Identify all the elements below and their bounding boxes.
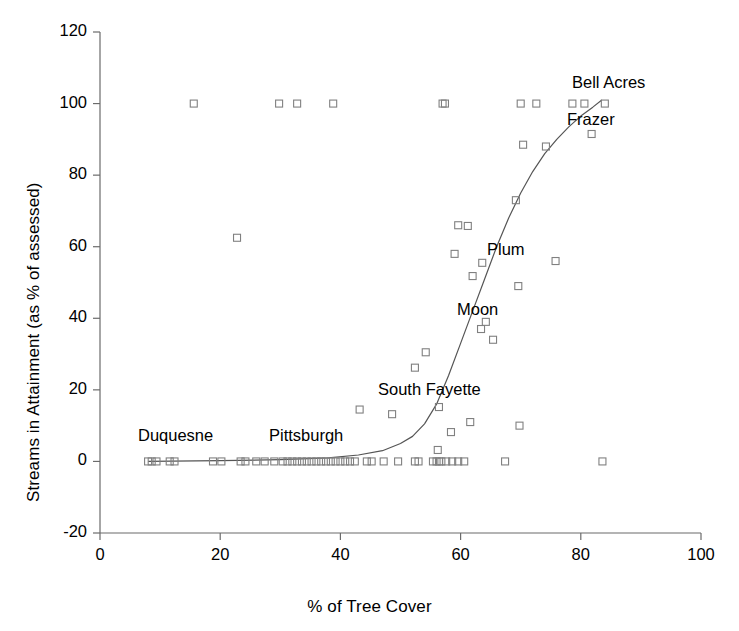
y-tick-label: 100 [41,93,87,112]
data-point-marker [242,458,249,465]
data-point-marker [342,458,349,465]
data-point-marker [599,458,606,465]
data-point-marker [271,458,278,465]
y-axis-ticks [93,32,100,533]
x-tick-label: 100 [678,545,724,564]
data-point-marker [276,100,283,107]
scatter-chart: Streams in Attainment (as % of assessed)… [0,0,739,631]
data-point-marker [368,458,375,465]
data-point-marker [439,100,446,107]
x-tick-label: 40 [317,545,363,564]
data-point-marker [441,100,448,107]
data-point-marker [533,100,540,107]
data-points [145,100,609,465]
data-point-marker [330,100,337,107]
data-point-marker [455,222,462,229]
y-tick-label: 120 [41,21,87,40]
data-point-marker [438,458,445,465]
data-point-marker [569,100,576,107]
data-point-marker [478,326,485,333]
point-annotation-label: Frazer [567,110,615,129]
x-axis-title: % of Tree Cover [0,597,739,617]
data-point-marker [380,458,387,465]
point-annotation-label: Bell Acres [572,73,645,92]
data-point-marker [209,458,216,465]
point-annotation-label: Moon [457,300,498,319]
data-point-marker [552,258,559,265]
y-tick-label: -20 [41,522,87,541]
data-point-marker [601,100,608,107]
y-tick-label: 20 [41,379,87,398]
x-tick-label: 60 [438,545,484,564]
data-point-marker [464,222,471,229]
x-tick-label: 20 [197,545,243,564]
plot-area [0,0,739,631]
data-point-marker [261,458,268,465]
data-point-marker [294,100,301,107]
point-annotation-label: South Fayette [378,380,481,399]
data-point-marker [347,458,354,465]
data-point-marker [363,458,370,465]
data-point-marker [253,458,260,465]
data-point-marker [411,364,418,371]
data-point-marker [351,458,358,465]
data-point-marker [515,283,522,290]
point-annotation-label: Pittsburgh [269,426,343,445]
data-point-marker [190,100,197,107]
x-tick-label: 80 [558,545,604,564]
data-point-marker [482,318,489,325]
data-point-marker [318,458,325,465]
data-point-marker [327,458,334,465]
data-point-marker [467,419,474,426]
data-point-marker [356,406,363,413]
data-point-marker [218,458,225,465]
data-point-marker [234,234,241,241]
point-annotation-label: Duquesne [138,426,213,445]
data-point-marker [322,458,329,465]
data-point-marker [451,250,458,257]
y-tick-label: 0 [41,450,87,469]
y-tick-label: 60 [41,236,87,255]
fit-curve [148,100,602,461]
data-point-marker [516,422,523,429]
data-point-marker [490,336,497,343]
point-annotation-label: Plum [487,240,525,259]
data-point-marker [395,458,402,465]
x-axis-ticks [100,533,701,540]
data-point-marker [434,446,441,453]
data-point-marker [237,458,244,465]
data-point-marker [422,349,429,356]
data-point-marker [337,458,344,465]
data-point-marker [588,130,595,137]
fit-curve-line [148,100,602,461]
y-tick-label: 80 [41,164,87,183]
x-tick-label: 0 [77,545,123,564]
data-point-marker [581,100,588,107]
data-point-marker [469,273,476,280]
data-point-marker [479,259,486,266]
data-point-marker [502,458,509,465]
y-tick-label: 40 [41,307,87,326]
data-point-marker [447,429,454,436]
data-point-marker [332,458,339,465]
data-point-marker [517,100,524,107]
data-point-marker [520,141,527,148]
data-point-marker [389,411,396,418]
